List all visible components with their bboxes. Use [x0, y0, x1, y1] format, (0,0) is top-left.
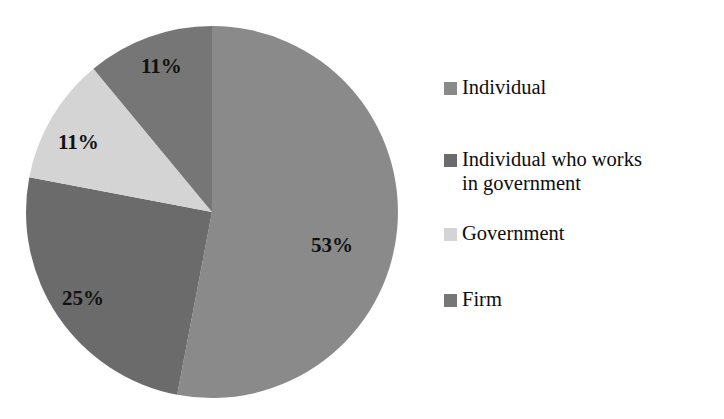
pie-chart-svg — [0, 0, 430, 419]
legend-item-label: Individual who works in government — [462, 148, 642, 196]
legend-item-label: Firm — [462, 288, 502, 312]
legend-swatch-icon — [444, 228, 457, 241]
pie-chart-plot-area: 53% 25% 11% 11% — [0, 0, 430, 419]
legend-swatch-icon — [444, 154, 457, 167]
legend-item-label: Government — [462, 222, 564, 246]
legend-item-individual-who-works-in-government[interactable]: Individual who works in government — [444, 148, 642, 196]
legend-swatch-icon — [444, 82, 457, 95]
pie-slices — [26, 26, 398, 398]
pie-chart-figure: 53% 25% 11% 11% Individual Individual wh… — [0, 0, 724, 419]
legend-item-label: Individual — [462, 76, 546, 100]
legend-item-government[interactable]: Government — [444, 222, 564, 246]
legend-swatch-icon — [444, 294, 457, 307]
legend-item-firm[interactable]: Firm — [444, 288, 502, 312]
pie-label-individual-who-works-in-government: 25% — [62, 288, 104, 309]
legend-item-individual[interactable]: Individual — [444, 76, 546, 100]
pie-label-firm: 11% — [141, 56, 182, 77]
pie-label-government: 11% — [58, 132, 99, 153]
pie-label-individual: 53% — [311, 235, 353, 256]
